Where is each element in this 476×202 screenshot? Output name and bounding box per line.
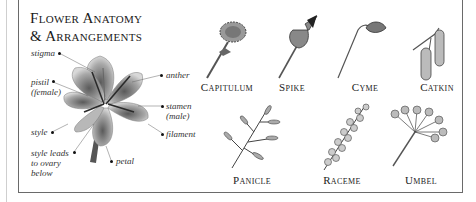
spike-illustration [265, 10, 325, 80]
umbel-illustration [385, 104, 455, 174]
raceme-illustration [318, 98, 378, 178]
raceme-label: Raceme [302, 174, 382, 186]
stamen-marker [161, 105, 164, 108]
petal-marker [110, 160, 113, 163]
style-label: style [31, 127, 48, 137]
spike-label: Spike [252, 81, 332, 93]
panicle-illustration [218, 100, 288, 180]
filament-marker [161, 133, 164, 136]
cyme-label: Cyme [325, 81, 405, 93]
petal-label: petal [116, 156, 134, 166]
stamen-label: stamen (male) [166, 101, 192, 121]
style-marker [51, 131, 54, 134]
catkin-label: Catkin [397, 81, 476, 93]
stigma-label: stigma [31, 48, 55, 58]
stigma-marker [58, 52, 61, 55]
umbel-label: Umbel [381, 174, 461, 186]
cyme-illustration [330, 10, 390, 80]
style-leads-marker [73, 151, 76, 154]
anther-marker [160, 74, 163, 77]
pistil-label: pistil (female) [31, 77, 61, 97]
panicle-label: Panicle [212, 174, 292, 186]
filament-label: filament [166, 129, 196, 139]
catkin-illustration [405, 14, 465, 84]
anther-label: anther [166, 70, 190, 80]
capitulum-illustration [195, 10, 255, 80]
style-leads-label: style leads to ovary below [31, 148, 69, 178]
